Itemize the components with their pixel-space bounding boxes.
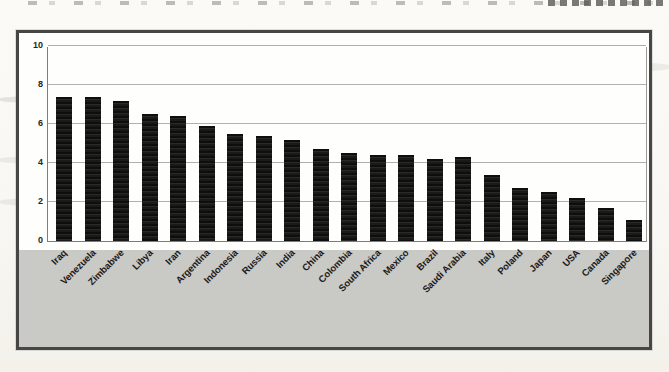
bar-venezuela bbox=[85, 97, 101, 241]
bar-chart-frame: 0246810 IraqVenezuelaZimbabweLibyaIranAr… bbox=[16, 30, 652, 350]
gridline-y-8 bbox=[48, 84, 646, 85]
bar-iran bbox=[170, 116, 186, 241]
bar-mexico bbox=[398, 155, 414, 241]
bar-zimbabwe bbox=[113, 101, 129, 241]
bar-south-africa bbox=[370, 155, 386, 241]
plot-area: 0246810 bbox=[47, 47, 647, 242]
bar-india bbox=[284, 140, 300, 241]
bar-china bbox=[313, 149, 329, 241]
bar-indonesia bbox=[227, 134, 243, 241]
bar-saudi-arabia bbox=[455, 157, 471, 241]
bar-singapore bbox=[626, 220, 642, 241]
bar-argentina bbox=[199, 126, 215, 241]
bar-colombia bbox=[341, 153, 357, 241]
bar-libya bbox=[142, 114, 158, 241]
y-tick-label-6: 6 bbox=[21, 119, 43, 128]
bar-italy bbox=[484, 175, 500, 241]
bar-iraq bbox=[56, 97, 72, 241]
bar-usa bbox=[569, 198, 585, 241]
bar-japan bbox=[541, 192, 557, 241]
gridline-y-6 bbox=[48, 123, 646, 124]
bar-russia bbox=[256, 136, 272, 241]
y-tick-label-0: 0 bbox=[21, 236, 43, 245]
cropped-text-artifact-right bbox=[548, 0, 666, 6]
scanned-page-background: 0246810 IraqVenezuelaZimbabweLibyaIranAr… bbox=[0, 0, 669, 372]
gridline-y-10 bbox=[48, 45, 646, 46]
bar-canada bbox=[598, 208, 614, 241]
y-tick-label-10: 10 bbox=[21, 41, 43, 50]
bar-poland bbox=[512, 188, 528, 241]
bar-brazil bbox=[427, 159, 443, 241]
y-tick-label-4: 4 bbox=[21, 158, 43, 167]
y-tick-label-2: 2 bbox=[21, 197, 43, 206]
y-tick-label-8: 8 bbox=[21, 80, 43, 89]
